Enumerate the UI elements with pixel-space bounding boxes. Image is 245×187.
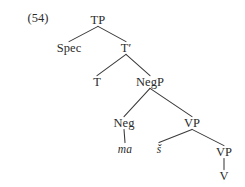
tree-branch: [124, 129, 125, 142]
tree-branch: [97, 54, 126, 75]
tree-node-s: š: [157, 143, 162, 156]
tree-node-ma: ma: [118, 143, 132, 156]
tree-node-neg: Neg: [113, 117, 134, 130]
tree-branch: [150, 88, 192, 116]
tree-branch: [159, 129, 192, 142]
tree-branch: [98, 26, 126, 41]
tree-node-negp: NegP: [136, 76, 164, 89]
syntax-tree-figure: (54) TPSpecT′TNegPNegVPmašVPV: [0, 0, 245, 187]
tree-node-spec: Spec: [57, 42, 82, 55]
tree-branch: [69, 26, 98, 41]
tree-branch: [124, 88, 150, 116]
tree-node-vp2: VP: [216, 146, 232, 159]
tree-node-tp: TP: [91, 14, 106, 27]
tree-branch: [192, 129, 224, 145]
tree-node-t: T: [93, 76, 101, 89]
tree-node-v: V: [219, 170, 228, 183]
tree-node-tbar: T′: [121, 42, 132, 55]
tree-branch: [126, 54, 150, 75]
tree-node-vp1: VP: [184, 117, 200, 130]
tree-branches: [0, 0, 245, 187]
